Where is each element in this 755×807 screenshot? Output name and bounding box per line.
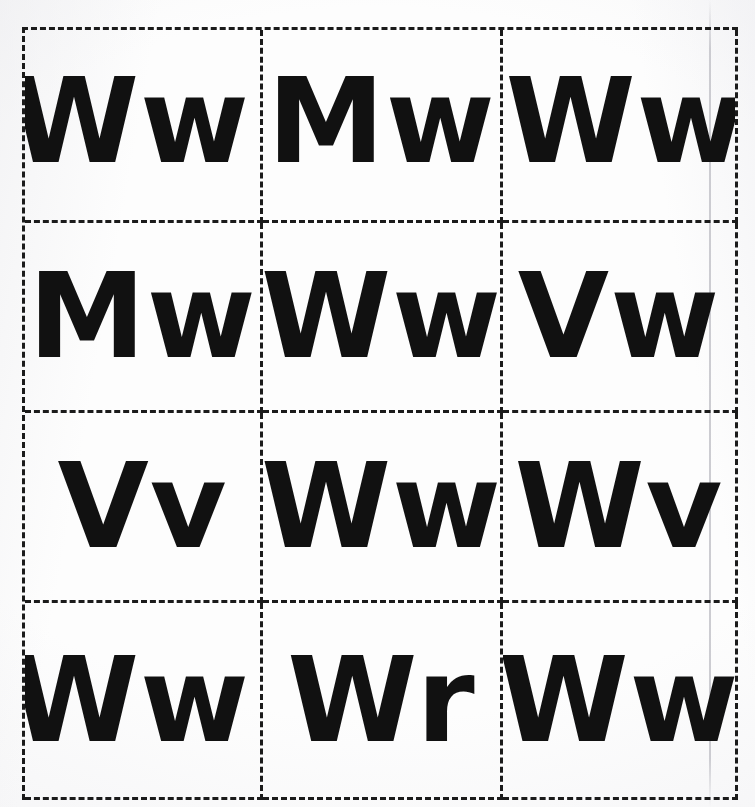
letter-pair: Wr <box>287 641 475 759</box>
flashcard-cell[interactable]: Ww <box>503 603 738 800</box>
flashcard-cell[interactable]: Vw <box>503 223 738 413</box>
flashcard-cell[interactable]: Wv <box>503 413 738 603</box>
scanned-sheet: Ww Mw Ww Mw Ww Vw Vv Ww Wv Ww <box>0 0 755 807</box>
letter-pair: Vv <box>57 447 227 565</box>
flashcard-cell[interactable]: Ww <box>25 30 263 223</box>
flashcard-cell[interactable]: Ww <box>25 603 263 800</box>
flashcard-grid: Ww Mw Ww Mw Ww Vw Vv Ww Wv Ww <box>22 27 738 800</box>
flashcard-cell[interactable]: Mw <box>263 30 503 223</box>
flashcard-cell[interactable]: Wr <box>263 603 503 800</box>
letter-pair: Ww <box>263 257 502 375</box>
letter-pair: Ww <box>25 641 250 759</box>
letter-pair: Ww <box>263 447 502 565</box>
letter-pair: Mw <box>267 62 495 180</box>
flashcard-cell[interactable]: Mw <box>25 223 263 413</box>
flashcard-cell[interactable]: Ww <box>263 413 503 603</box>
flashcard-cell[interactable]: Vv <box>25 413 263 603</box>
flashcard-cell[interactable]: Ww <box>503 30 738 223</box>
letter-pair: Wv <box>514 447 723 565</box>
letter-pair: Ww <box>505 62 738 180</box>
letter-pair: Ww <box>503 641 738 759</box>
letter-pair: Ww <box>25 62 250 180</box>
flashcard-cell[interactable]: Ww <box>263 223 503 413</box>
letter-pair: Mw <box>28 257 256 375</box>
letter-pair: Vw <box>518 257 720 375</box>
